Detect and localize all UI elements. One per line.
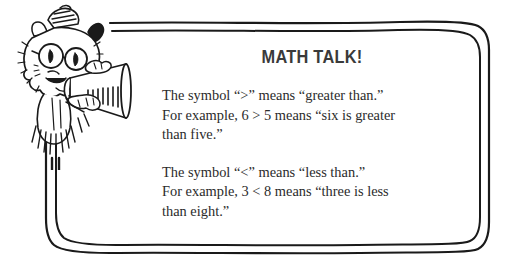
upper-hand [85,61,111,74]
lower-hand [68,95,100,110]
paragraph-line: The symbol “>” means “greater than.” [162,86,442,106]
callout-title: MATH TALK! [183,46,441,68]
paragraph-line: than eight.” [162,202,442,222]
paragraph-line: For example, 3 < 8 means “three is less [162,182,442,202]
megaphone-bell [121,64,131,118]
paragraph-greater-than: The symbol “>” means “greater than.” For… [162,86,442,145]
math-talk-callout: MATH TALK! The symbol “>” means “greater… [0,0,514,276]
paragraph-less-than: The symbol “<” means “less than.” For ex… [162,163,442,222]
callout-body: The symbol “>” means “greater than.” For… [162,86,442,221]
paragraph-line: than five.” [162,125,442,145]
paragraph-line: The symbol “<” means “less than.” [162,163,442,183]
cartoon-cat-with-megaphone-illustration [8,2,166,170]
legs [52,158,59,170]
paragraph-line: For example, 6 > 5 means “six is greater [162,106,442,126]
glasses-bridge [63,57,65,58]
